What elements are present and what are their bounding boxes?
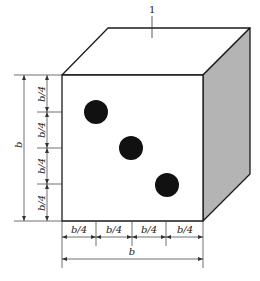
vertical-total-label: b bbox=[13, 142, 24, 148]
vertical-segment-label-2: b/4 bbox=[36, 122, 47, 138]
cube bbox=[62, 28, 250, 221]
pip-3 bbox=[155, 173, 179, 197]
pip-2 bbox=[119, 136, 143, 160]
horizontal-segment-label-1: b/4 bbox=[71, 224, 87, 235]
dice-dimension-diagram: 1 b b/4 b/4 b/4 b/4 b/4 b/4 b/4 b/4 b bbox=[0, 0, 260, 281]
vertical-segment-label-1: b/4 bbox=[36, 86, 47, 102]
vertical-segment-label-3: b/4 bbox=[36, 158, 47, 174]
horizontal-segment-label-4: b/4 bbox=[177, 224, 193, 235]
horizontal-segment-label-2: b/4 bbox=[106, 224, 122, 235]
horizontal-total-label: b bbox=[129, 246, 135, 257]
vertical-segment-label-4: b/4 bbox=[36, 195, 47, 211]
horizontal-segment-label-3: b/4 bbox=[141, 224, 157, 235]
callout-label: 1 bbox=[149, 4, 155, 15]
pip-1 bbox=[84, 100, 108, 124]
